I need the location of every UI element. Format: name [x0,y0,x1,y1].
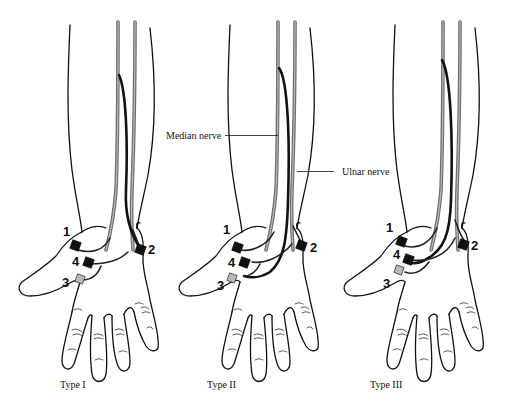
electrode-3 [75,274,85,284]
electrode-label-2: 2 [471,238,478,253]
electrode-4 [83,257,95,269]
panel-type-1: 1 2 4 3 Type I [19,22,158,390]
electrode-label-3: 3 [383,276,390,291]
electrode-4 [239,257,251,269]
median-nerve-annotation: Median nerve [166,130,278,141]
ulnar-nerve-label: Ulnar nerve [342,166,390,177]
panel-caption-type-3: Type III [370,379,402,390]
electrode-label-2: 2 [310,240,317,255]
median-nerve-label: Median nerve [166,130,222,141]
electrode-label-3: 3 [62,275,69,290]
electrode-1 [232,242,244,254]
nerve-trunks [106,22,135,250]
electrode-label-4: 4 [393,247,401,262]
electrode-label-1: 1 [386,220,393,235]
electrode-label-3: 3 [217,278,224,293]
electrode-label-1: 1 [63,224,70,239]
electrode-2 [296,240,308,252]
ulnar-nerve-annotation: Ulnar nerve [297,166,390,177]
nerve-anastomosis-diagram: 1 2 4 3 Type I 1 2 4 3 Type II Median ne… [0,0,510,411]
arm-outline [19,25,158,382]
electrode-3 [394,265,404,275]
anastomosis-fiber [119,75,140,248]
branch-4 [90,252,128,264]
nerve-trunks [431,22,460,250]
arm-outline [179,25,318,382]
electrode-label-1: 1 [223,222,230,237]
anastomosis-fiber [409,60,452,263]
panel-type-3: 1 2 4 3 Type III [344,22,483,390]
arm-outline [344,25,483,382]
electrode-label-4: 4 [228,255,236,270]
panel-type-2: 1 2 4 3 Type II [179,22,318,390]
panel-caption-type-1: Type I [60,379,86,390]
electrode-3 [227,273,237,283]
nerve-trunks [266,22,295,250]
panel-caption-type-2: Type II [207,379,236,390]
electrode-2 [135,244,147,256]
electrode-label-4: 4 [72,254,80,269]
electrode-1 [70,240,82,252]
electrode-label-2: 2 [148,242,155,257]
